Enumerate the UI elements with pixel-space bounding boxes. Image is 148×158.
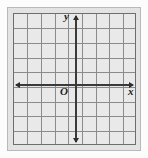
- grid-line-vertical: [68, 14, 69, 144]
- grid-area: [13, 13, 136, 145]
- grid-line-vertical: [123, 14, 124, 144]
- grid-line-vertical: [27, 14, 28, 144]
- grid-line-vertical: [82, 14, 83, 144]
- y-axis-label: y: [64, 11, 69, 22]
- x-axis-label: x: [128, 86, 134, 97]
- arrow-left-icon: [15, 82, 20, 88]
- grid-line-vertical: [55, 14, 56, 144]
- grid-line-vertical: [41, 14, 42, 144]
- grid-line-vertical: [109, 14, 110, 144]
- arrow-up-icon: [73, 15, 79, 20]
- coordinate-plane-figure: y x O: [0, 0, 148, 158]
- x-axis: [16, 84, 133, 86]
- origin-label: O: [60, 86, 68, 97]
- y-axis: [75, 16, 77, 142]
- arrow-down-icon: [73, 138, 79, 143]
- grid-line-vertical: [96, 14, 97, 144]
